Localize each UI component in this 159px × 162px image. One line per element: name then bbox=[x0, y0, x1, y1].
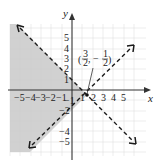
svg-text:): ) bbox=[108, 54, 111, 66]
svg-text:2: 2 bbox=[64, 63, 69, 74]
svg-text:1: 1 bbox=[80, 92, 85, 103]
svg-text:5: 5 bbox=[64, 32, 69, 43]
svg-text:5: 5 bbox=[121, 92, 126, 103]
svg-text:3: 3 bbox=[101, 92, 106, 103]
shaded-solution-region bbox=[10, 24, 87, 152]
svg-text:−2: −2 bbox=[45, 92, 56, 103]
svg-text:1: 1 bbox=[64, 74, 69, 85]
svg-text:4: 4 bbox=[111, 92, 116, 103]
x-axis-label: x bbox=[147, 92, 153, 104]
y-axis-arrow-icon bbox=[69, 13, 75, 20]
y-axis-label: y bbox=[62, 7, 68, 19]
svg-text:2: 2 bbox=[91, 92, 96, 103]
svg-text:, −: , − bbox=[88, 53, 99, 64]
inequality-graph: x y −5 −4 −3 −2 −1 1 2 3 4 5 5 4 3 2 1 −… bbox=[0, 0, 159, 162]
intersection-label: ( 3 2 , − 1 2 ) bbox=[78, 48, 111, 68]
svg-text:(: ( bbox=[78, 54, 82, 66]
svg-text:−5: −5 bbox=[59, 136, 70, 147]
svg-text:−2: −2 bbox=[59, 105, 70, 116]
svg-text:−5: −5 bbox=[14, 92, 25, 103]
